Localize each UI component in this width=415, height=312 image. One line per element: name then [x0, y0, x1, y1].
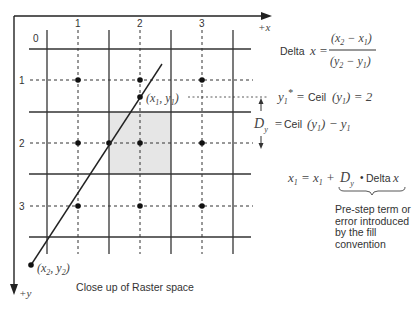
- svg-text:Ceil: Ceil: [308, 91, 326, 103]
- svg-text:x: x: [392, 170, 399, 185]
- x-axis-label: +x: [258, 21, 270, 33]
- point-2-label: (x2, y2): [37, 261, 70, 277]
- svg-text:x1 = x1 +: x1 = x1 +: [287, 170, 335, 187]
- svg-text:Ceil: Ceil: [284, 118, 302, 130]
- svg-text:•: •: [360, 172, 364, 183]
- diagram-caption: Close up of Raster space: [0, 281, 270, 293]
- row-label-3: 3: [19, 201, 25, 212]
- point-1-dot: [137, 94, 143, 100]
- column-label-1: 1: [75, 18, 81, 29]
- svg-text:(y1) = 2: (y1) = 2: [332, 89, 373, 106]
- row-label-1: 1: [19, 75, 25, 86]
- x1-update-equation: x1 = x1 + Dy • Delta x: [287, 170, 405, 195]
- prestep-annotation: Pre-step term or error introduced by the…: [335, 204, 415, 250]
- svg-text:(x2 − x1): (x2 − x1): [331, 31, 372, 47]
- y1-star-equation: y1* = Ceil (y1) = 2: [276, 87, 373, 106]
- svg-text:Delta: Delta: [280, 45, 305, 57]
- svg-text:Dy: Dy: [253, 116, 268, 134]
- svg-text:y1* =: y1* =: [276, 87, 305, 106]
- dy-equation: Dy = Ceil (y1) − y1: [253, 116, 350, 134]
- point-2-dot: [28, 262, 34, 268]
- delta-x-equation: Delta x = (x2 − x1) (y2 − y1): [280, 31, 376, 70]
- svg-text:x =: x =: [309, 43, 328, 58]
- point-1-label: (x1, y1): [146, 91, 179, 107]
- svg-text:(y1) − y1: (y1) − y1: [307, 116, 350, 133]
- svg-text:Delta: Delta: [366, 172, 391, 184]
- svg-text:=: =: [274, 116, 283, 131]
- column-label-2: 2: [137, 18, 143, 29]
- origin-label: 0: [33, 33, 39, 44]
- row-label-2: 2: [19, 138, 25, 149]
- column-label-3: 3: [199, 18, 205, 29]
- underbrace: [339, 187, 405, 195]
- svg-text:Dy: Dy: [339, 170, 354, 188]
- svg-text:(y2 − y1): (y2 − y1): [330, 54, 371, 70]
